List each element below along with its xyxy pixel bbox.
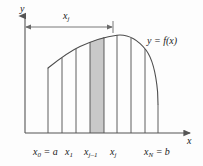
riemann-sum-figure: y x xj y = f(x) x0 = a x1 xj–1 xj xN = b	[0, 0, 203, 166]
figure-canvas	[0, 0, 203, 166]
tick-label-x1: x1	[65, 147, 73, 159]
shaded-strip	[90, 37, 104, 133]
function-label-lhs: y =	[147, 35, 163, 46]
dimension-label-sub: j	[67, 15, 69, 23]
tick-label-xN: xN = b	[144, 147, 170, 159]
y-axis-label: y	[20, 4, 24, 14]
x-axis-label: x	[187, 136, 191, 146]
tick-label-xjm1-sub: j–1	[88, 151, 97, 159]
dimension-label-xj: xj	[63, 11, 69, 23]
tick-label-xN-rest: = b	[153, 146, 170, 157]
tick-label-xj-sub: j	[114, 151, 116, 159]
tick-label-x0: x0 = a	[33, 147, 58, 159]
function-label: y = f(x)	[147, 36, 177, 46]
tick-label-xj: xj	[110, 147, 116, 159]
tick-label-xjm1: xj–1	[84, 147, 97, 159]
function-label-arg: (x)	[166, 35, 177, 46]
tick-label-x0-rest: = a	[41, 146, 58, 157]
tick-label-x1-sub: 1	[69, 151, 73, 159]
